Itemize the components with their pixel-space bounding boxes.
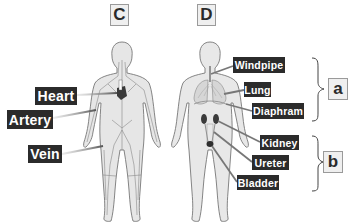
callout-kidney: Kidney [260, 135, 299, 150]
callout-bladder: Bladder [237, 175, 279, 190]
callout-lung: Lung [244, 82, 271, 97]
callout-artery: Artery [7, 110, 53, 129]
group-b-label-box: b [323, 151, 343, 173]
callout-heart: Heart [35, 87, 77, 105]
callout-vein: Vein [28, 145, 62, 163]
callout-windpipe: Windpipe [233, 57, 285, 73]
circulatory-body-figure [84, 42, 161, 221]
callout-ureter: Ureter [252, 155, 289, 170]
bracket-b-brace [312, 136, 323, 191]
figure-d-label-box: D [197, 4, 216, 26]
bracket-a-brace [312, 58, 324, 121]
callout-diaphram: Diaphram [252, 103, 304, 119]
figure-c-label-box: C [110, 4, 129, 26]
group-a-label-box: a [328, 78, 348, 100]
